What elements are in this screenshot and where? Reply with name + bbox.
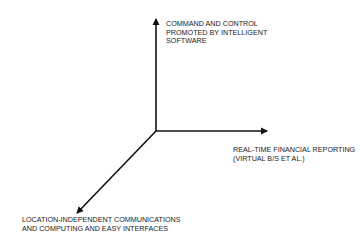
vertical-axis-label-line: SOFTWARE: [166, 37, 267, 46]
diagonal-axis-arrow: [77, 131, 156, 213]
diagonal-axis-label-line: AND COMPUTING AND EASY INTERFACES: [22, 225, 181, 234]
diagonal-axis-label: LOCATION-INDEPENDENT COMMUNICATIONS AND …: [22, 216, 181, 233]
horizontal-axis-label-line: (VIRTUAL B/S ET AL.): [233, 155, 355, 164]
horizontal-axis-label: REAL-TIME FINANCIAL REPORTING (VIRTUAL B…: [233, 146, 355, 163]
vertical-axis-label: COMMAND AND CONTROL PROMOTED BY INTELLIG…: [166, 20, 267, 46]
